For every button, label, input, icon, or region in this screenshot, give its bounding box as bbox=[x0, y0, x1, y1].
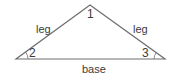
angle-arc-right bbox=[154, 53, 156, 59]
left-leg-label: leg bbox=[36, 23, 51, 35]
angle-label-apex: 1 bbox=[87, 7, 94, 21]
right-leg-label: leg bbox=[133, 23, 148, 35]
angle-label-right: 3 bbox=[142, 46, 149, 60]
triangle-diagram: 1 2 3 leg leg base bbox=[0, 0, 173, 79]
base-label: base bbox=[82, 63, 106, 75]
angle-arc-left bbox=[26, 52, 28, 59]
angle-label-left: 2 bbox=[29, 46, 36, 60]
